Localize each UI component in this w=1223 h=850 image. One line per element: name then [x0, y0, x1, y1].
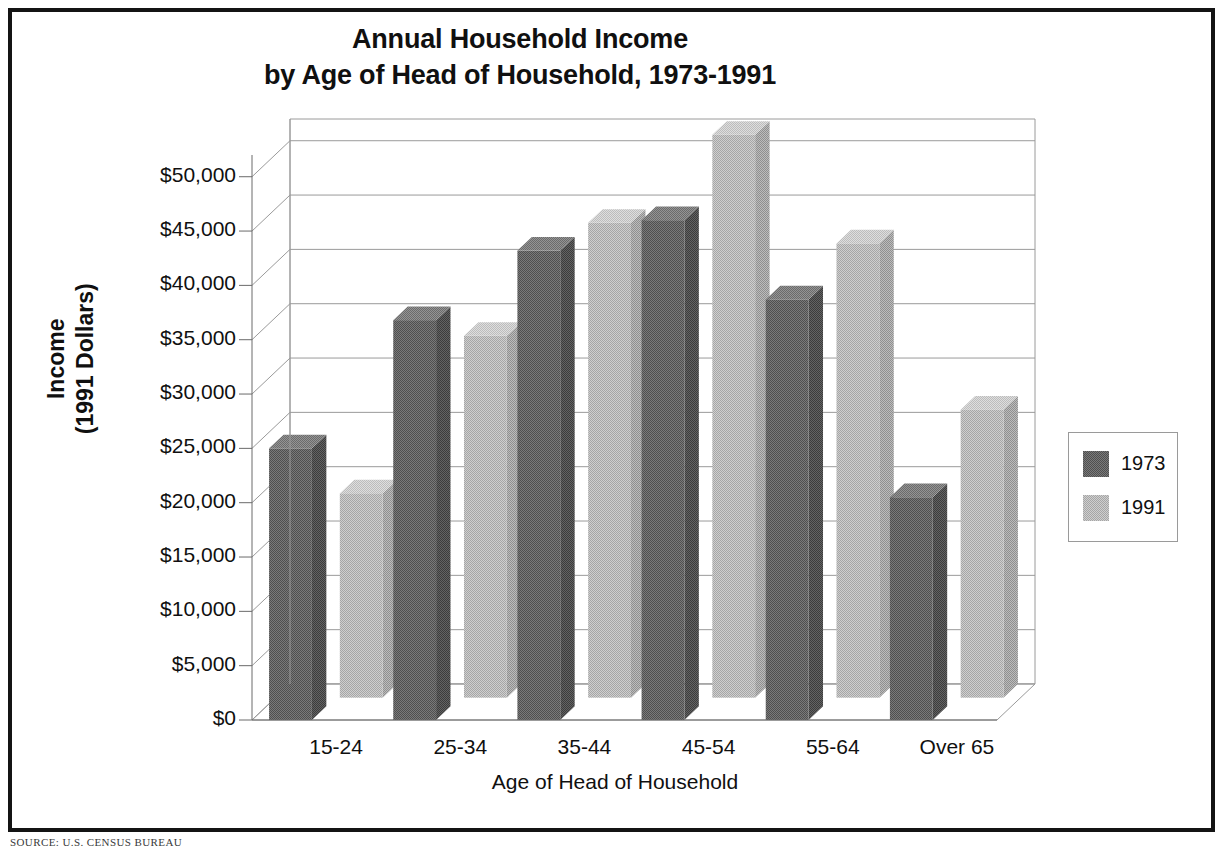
x-category-label: 35-44 — [514, 735, 654, 759]
x-category-label: 15-24 — [266, 735, 406, 759]
x-axis-title: Age of Head of Household — [230, 770, 1000, 794]
y-tick-label: $35,000 — [30, 326, 236, 350]
bar-55-64-1991 — [836, 230, 893, 698]
legend-swatch-1973 — [1083, 451, 1109, 477]
legend-swatch-1991 — [1083, 495, 1109, 521]
x-category-label: 45-54 — [639, 735, 779, 759]
chart-canvas — [0, 0, 1207, 824]
bar-15-24-1973 — [269, 435, 326, 720]
chart-plot-area: $0$5,000$10,000$15,000$20,000$25,000$30,… — [0, 0, 1207, 824]
bar-25-34-1991 — [464, 322, 521, 697]
y-tick-label: $20,000 — [30, 489, 236, 513]
y-tick-label: $40,000 — [30, 271, 236, 295]
bar-55-64-1973 — [766, 286, 823, 720]
bar-15-24-1991 — [340, 480, 397, 698]
chart-legend: 1973 1991 — [1068, 432, 1178, 542]
x-category-label: 55-64 — [763, 735, 903, 759]
bar-45-54-1991 — [712, 121, 769, 698]
x-category-label: 25-34 — [390, 735, 530, 759]
y-tick-label: $45,000 — [30, 217, 236, 241]
legend-label-1973: 1973 — [1121, 452, 1166, 475]
bar-25-34-1973 — [393, 306, 450, 720]
bar-35-44-1991 — [588, 209, 645, 697]
source-note: SOURCE: U.S. CENSUS BUREAU — [10, 836, 182, 848]
y-tick-label: $15,000 — [30, 543, 236, 567]
y-tick-label: $30,000 — [30, 380, 236, 404]
y-tick-label: $0 — [30, 706, 236, 730]
y-tick-label: $50,000 — [30, 163, 236, 187]
bar-35-44-1973 — [517, 237, 574, 720]
bar-over-65-1973 — [890, 484, 947, 720]
y-tick-label: $5,000 — [30, 652, 236, 676]
legend-label-1991: 1991 — [1121, 496, 1166, 519]
y-tick-label: $25,000 — [30, 434, 236, 458]
bar-over-65-1991 — [961, 396, 1018, 698]
x-category-label: Over 65 — [887, 735, 1027, 759]
bar-45-54-1973 — [642, 207, 699, 720]
y-tick-label: $10,000 — [30, 597, 236, 621]
chart-y-ticks — [239, 177, 252, 720]
